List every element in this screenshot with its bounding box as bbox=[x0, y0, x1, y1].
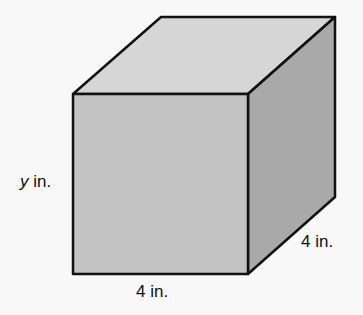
prism-diagram: y in. 4 in. 4 in. bbox=[0, 0, 363, 315]
height-unit: in. bbox=[29, 172, 52, 191]
depth-label: 4 in. bbox=[301, 232, 333, 252]
height-variable: y bbox=[20, 172, 29, 191]
width-label: 4 in. bbox=[136, 282, 168, 302]
front-face bbox=[73, 94, 248, 274]
prism-figure bbox=[0, 0, 363, 315]
height-label: y in. bbox=[20, 172, 51, 192]
